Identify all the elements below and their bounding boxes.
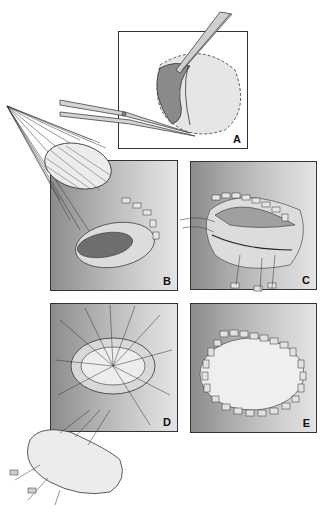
- kidney-patch: [28, 430, 123, 494]
- illustration-drawing: [0, 0, 326, 512]
- panel-c-drawing: [206, 198, 303, 269]
- pledgets-d: [10, 470, 36, 493]
- panel-a-tissue: [157, 54, 241, 134]
